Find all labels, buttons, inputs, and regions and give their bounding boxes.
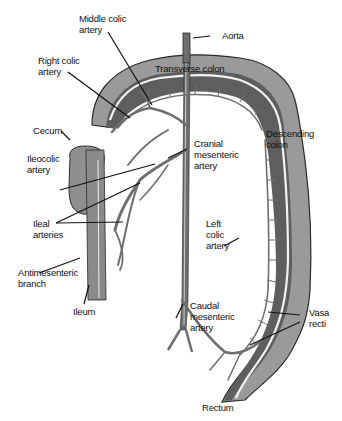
label-ileal-arteries: Ileal arteries xyxy=(33,218,63,240)
ileum xyxy=(86,150,106,300)
label-cecum: Cecum xyxy=(33,125,62,136)
label-transverse-colon: Transverse colon xyxy=(155,63,224,74)
label-ileum: Ileum xyxy=(73,306,95,317)
label-cranial-mesenteric-artery: Cranial mesenteric artery xyxy=(194,138,238,171)
label-right-colic-artery: Right colic artery xyxy=(38,55,80,77)
label-left-colic-artery: Left colic artery xyxy=(206,218,229,251)
arteries xyxy=(112,92,269,380)
label-middle-colic-artery: Middle colic artery xyxy=(79,13,126,35)
label-caudal-mesenteric-artery: Caudal mesenteric artery xyxy=(190,300,234,333)
label-antimesenteric-branch: Antimesenteric branch xyxy=(18,267,78,289)
colon xyxy=(92,55,311,402)
label-aorta: Aorta xyxy=(222,30,244,41)
label-descending-colon: Descending colon xyxy=(266,128,314,150)
label-ileocolic-artery: Ileocolic artery xyxy=(27,153,60,175)
label-rectum: Rectum xyxy=(202,402,234,413)
label-vasa-recti: Vasa recti xyxy=(309,307,329,329)
